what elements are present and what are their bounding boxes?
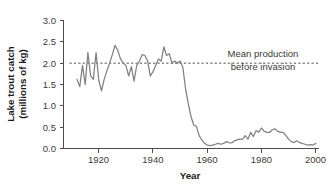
x-tick-label-1920: 1920 (88, 154, 109, 165)
chart-figure: Lake trout catch (millions of kg) 0.0 0.… (0, 0, 334, 185)
y-tick-label-3: 1.5 (43, 79, 56, 90)
x-axis-tick-labels: 1920 1940 1960 1980 2000 (88, 154, 326, 165)
y-tick-label-6: 3.0 (43, 15, 56, 26)
y-tick-label-4: 2.0 (43, 58, 56, 69)
y-tick-label-0: 0.0 (43, 143, 56, 154)
mean-production-annotation: Mean production before invasion (228, 48, 299, 72)
y-tick-label-5: 2.5 (43, 36, 56, 47)
x-axis-ticks (99, 149, 316, 153)
y-axis-title-line1: Lake trout catch (5, 46, 16, 122)
line-chart: Lake trout catch (millions of kg) 0.0 0.… (0, 0, 334, 185)
x-tick-label-1980: 1980 (251, 154, 272, 165)
x-tick-label-2000: 2000 (305, 154, 326, 165)
y-axis-title: Lake trout catch (millions of kg) (5, 46, 28, 122)
annotation-line1: Mean production (228, 48, 299, 59)
annotation-line2: before invasion (231, 61, 295, 72)
y-axis-ticks (60, 21, 64, 149)
x-axis-title: Year (180, 170, 201, 181)
x-tick-label-1960: 1960 (197, 154, 218, 165)
y-tick-label-2: 1.0 (43, 100, 56, 111)
y-axis-title-line2: (millions of kg) (17, 49, 28, 119)
y-tick-label-1: 0.5 (43, 122, 56, 133)
x-tick-label-1940: 1940 (142, 154, 163, 165)
y-axis-tick-labels: 0.0 0.5 1.0 1.5 2.0 2.5 3.0 (43, 15, 56, 154)
